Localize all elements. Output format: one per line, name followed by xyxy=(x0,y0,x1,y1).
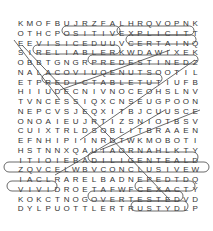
grid-letter[interactable]: F xyxy=(44,19,53,29)
grid-letter[interactable]: X xyxy=(62,146,71,156)
grid-letter[interactable]: U xyxy=(90,146,99,156)
grid-letter[interactable]: I xyxy=(80,136,89,146)
grid-letter[interactable]: U xyxy=(99,39,108,49)
grid-letter[interactable]: Z xyxy=(90,19,99,29)
grid-letter[interactable]: U xyxy=(126,68,135,78)
grid-letter[interactable]: D xyxy=(181,58,190,68)
grid-letter[interactable]: B xyxy=(71,156,80,166)
grid-letter[interactable]: I xyxy=(53,136,62,146)
grid-letter[interactable]: P xyxy=(172,19,181,29)
grid-letter[interactable]: A xyxy=(99,78,108,88)
grid-letter[interactable]: A xyxy=(44,68,53,78)
grid-letter[interactable]: E xyxy=(154,175,163,185)
grid-letter[interactable]: C xyxy=(71,39,80,49)
grid-letter[interactable]: N xyxy=(117,68,126,78)
grid-letter[interactable]: T xyxy=(145,58,154,68)
grid-letter[interactable]: R xyxy=(62,126,71,136)
grid-letter[interactable]: N xyxy=(34,136,43,146)
grid-letter[interactable]: C xyxy=(172,185,181,195)
grid-letter[interactable]: R xyxy=(126,146,135,156)
grid-letter[interactable]: T xyxy=(53,126,62,136)
grid-letter[interactable]: A xyxy=(145,48,154,58)
grid-letter[interactable]: A xyxy=(71,48,80,58)
grid-letter[interactable]: E xyxy=(53,165,62,175)
grid-letter[interactable]: R xyxy=(34,48,43,58)
grid-letter[interactable]: I xyxy=(191,136,200,146)
grid-letter[interactable]: H xyxy=(34,29,43,39)
grid-letter[interactable]: P xyxy=(145,175,154,185)
grid-letter[interactable]: P xyxy=(44,204,53,214)
grid-letter[interactable]: I xyxy=(25,87,34,97)
grid-letter[interactable]: L xyxy=(44,175,53,185)
grid-letter[interactable]: L xyxy=(163,146,172,156)
grid-letter[interactable]: U xyxy=(71,117,80,127)
grid-letter[interactable]: S xyxy=(181,117,190,127)
grid-letter[interactable]: T xyxy=(154,78,163,88)
grid-letter[interactable]: Y xyxy=(191,185,200,195)
grid-letter[interactable]: U xyxy=(62,19,71,29)
grid-letter[interactable]: O xyxy=(16,58,25,68)
grid-letter[interactable]: I xyxy=(25,185,34,195)
grid-letter[interactable]: T xyxy=(181,185,190,195)
grid-letter[interactable]: E xyxy=(62,117,71,127)
grid-letter[interactable]: N xyxy=(44,146,53,156)
grid-letter[interactable]: D xyxy=(62,78,71,88)
grid-letter[interactable]: B xyxy=(191,78,200,88)
grid-letter[interactable]: V xyxy=(16,185,25,195)
grid-letter[interactable]: N xyxy=(16,68,25,78)
grid-letter[interactable]: O xyxy=(154,136,163,146)
grid-letter[interactable]: I xyxy=(172,29,181,39)
grid-letter[interactable]: B xyxy=(53,19,62,29)
grid-letter[interactable]: P xyxy=(191,204,200,214)
grid-letter[interactable]: L xyxy=(135,165,144,175)
grid-letter[interactable]: U xyxy=(145,165,154,175)
grid-letter[interactable]: G xyxy=(71,58,80,68)
grid-letter[interactable]: Q xyxy=(191,175,200,185)
grid-letter[interactable]: V xyxy=(117,39,126,49)
grid-letter[interactable]: E xyxy=(135,195,144,205)
grid-letter[interactable]: E xyxy=(44,48,53,58)
grid-letter[interactable]: O xyxy=(62,68,71,78)
grid-letter[interactable]: S xyxy=(145,204,154,214)
grid-letter[interactable]: W xyxy=(71,165,80,175)
grid-letter[interactable]: S xyxy=(145,195,154,205)
grid-letter[interactable]: M xyxy=(145,136,154,146)
grid-letter[interactable]: S xyxy=(25,146,34,156)
grid-letter[interactable]: L xyxy=(34,68,43,78)
grid-letter[interactable]: A xyxy=(25,68,34,78)
grid-letter[interactable]: I xyxy=(16,156,25,166)
grid-letter[interactable]: R xyxy=(99,58,108,68)
grid-letter[interactable]: O xyxy=(172,136,181,146)
grid-letter[interactable]: I xyxy=(117,156,126,166)
grid-letter[interactable]: O xyxy=(181,97,190,107)
grid-letter[interactable]: O xyxy=(34,19,43,29)
grid-letter[interactable]: H xyxy=(154,87,163,97)
grid-letter[interactable]: R xyxy=(145,39,154,49)
grid-letter[interactable]: T xyxy=(154,156,163,166)
grid-letter[interactable]: K xyxy=(191,19,200,29)
grid-letter[interactable]: R xyxy=(135,19,144,29)
grid-letter[interactable]: C xyxy=(44,107,53,117)
grid-letter[interactable]: B xyxy=(80,48,89,58)
grid-letter[interactable]: C xyxy=(135,185,144,195)
grid-letter[interactable]: O xyxy=(163,68,172,78)
grid-letter[interactable]: H xyxy=(126,19,135,29)
grid-letter[interactable]: E xyxy=(135,87,144,97)
grid-letter[interactable]: T xyxy=(117,107,126,117)
grid-letter[interactable]: E xyxy=(25,39,34,49)
grid-letter[interactable]: O xyxy=(62,29,71,39)
grid-letter[interactable]: N xyxy=(117,97,126,107)
grid-letter[interactable]: S xyxy=(71,29,80,39)
grid-letter[interactable]: C xyxy=(44,165,53,175)
grid-letter[interactable]: B xyxy=(108,78,117,88)
grid-letter[interactable]: D xyxy=(117,175,126,185)
grid-letter[interactable]: E xyxy=(108,58,117,68)
grid-letter[interactable]: X xyxy=(99,97,108,107)
grid-letter[interactable]: U xyxy=(172,78,181,88)
grid-letter[interactable]: B xyxy=(25,58,34,68)
grid-letter[interactable]: L xyxy=(108,156,117,166)
grid-letter[interactable]: D xyxy=(53,87,62,97)
grid-letter[interactable]: U xyxy=(145,78,154,88)
grid-letter[interactable]: J xyxy=(135,107,144,117)
grid-letter[interactable]: I xyxy=(34,156,43,166)
